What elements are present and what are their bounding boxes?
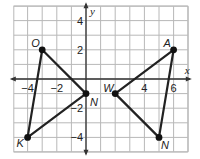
y-axis-arrow-down-icon — [84, 150, 89, 156]
vertex-label-n: N — [161, 139, 169, 151]
coordinate-graph: xy −4−24642−2−4 ONKAWN — [0, 0, 200, 159]
x-tick-label: −4 — [21, 82, 34, 94]
graph-svg: xy −4−24642−2−4 ONKAWN — [0, 0, 200, 159]
y-tick-label: −4 — [70, 131, 83, 143]
y-tick-label: 4 — [77, 15, 83, 27]
vertex-point-a — [170, 46, 177, 53]
vertex-label-a: A — [163, 37, 171, 49]
vertex-label-w: W — [103, 82, 115, 94]
vertex-label-n: N — [90, 96, 98, 108]
vertex-point-o — [39, 46, 46, 53]
x-axis-arrow-right-icon — [186, 77, 192, 82]
x-axis-arrow-left-icon — [10, 77, 16, 82]
x-tick-label: −2 — [51, 82, 64, 94]
vertex-label-k: K — [17, 137, 25, 149]
vertex-label-o: O — [31, 37, 40, 49]
vertex-point-k — [24, 134, 31, 141]
x-tick-label: 6 — [171, 82, 177, 94]
x-tick-label: 4 — [141, 82, 147, 94]
y-tick-label: 2 — [77, 44, 83, 56]
y-axis-arrow-up-icon — [84, 2, 89, 8]
y-axis-label: y — [89, 5, 95, 17]
vertex-point-n — [83, 90, 90, 97]
x-axis-label: x — [184, 64, 190, 76]
